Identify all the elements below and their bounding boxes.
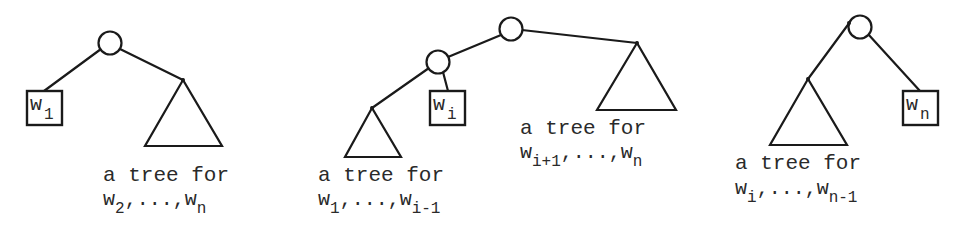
- tree-2: wi a tree for w1,...,wi-1 a tree for wi+…: [318, 18, 676, 219]
- subtree-triangle: [145, 80, 222, 146]
- left-subtree-range: w1,...,wi-1: [318, 188, 440, 218]
- right-subtree-range: wi+1,...,wn: [520, 141, 642, 171]
- subtree-caption: a tree for: [735, 152, 861, 175]
- right-subtree-triangle: [597, 43, 676, 110]
- edge-root-to-subtree: [120, 49, 183, 80]
- subtree-apex-dot: [181, 78, 185, 82]
- tree-3: wn a tree for wi,...,wn-1: [735, 16, 938, 208]
- inner-node: [427, 51, 450, 74]
- subtree-apex-dot: [806, 77, 810, 81]
- left-subtree-apex-dot: [370, 106, 374, 110]
- left-subtree-caption: a tree for: [318, 164, 444, 187]
- root-node: [500, 18, 523, 41]
- edge-root-to-leaf: [868, 34, 920, 91]
- edge-inner-to-leaf: [443, 72, 448, 91]
- subtree-range: wi,...,wn-1: [735, 177, 857, 207]
- left-subtree-triangle: [345, 108, 401, 157]
- diagram-canvas: w1 a tree for w2,...,wn wi a tree for w1…: [0, 0, 971, 225]
- root-node: [99, 32, 122, 55]
- edge-inner-to-left-subtree: [372, 68, 429, 108]
- edge-root-to-inner: [448, 35, 501, 57]
- right-subtree-apex-dot: [635, 41, 639, 45]
- edge-root-to-leaf: [44, 49, 101, 91]
- edge-root-to-subtree: [808, 22, 850, 79]
- subtree-triangle: [770, 79, 847, 145]
- right-subtree-caption: a tree for: [520, 117, 646, 140]
- tree-1: w1 a tree for w2,...,wn: [27, 32, 229, 219]
- root-edge-dot: [847, 21, 851, 25]
- edge-root-to-right-subtree: [522, 30, 637, 43]
- root-node: [849, 16, 872, 39]
- subtree-range: w2,...,wn: [103, 188, 206, 218]
- subtree-caption: a tree for: [103, 164, 229, 187]
